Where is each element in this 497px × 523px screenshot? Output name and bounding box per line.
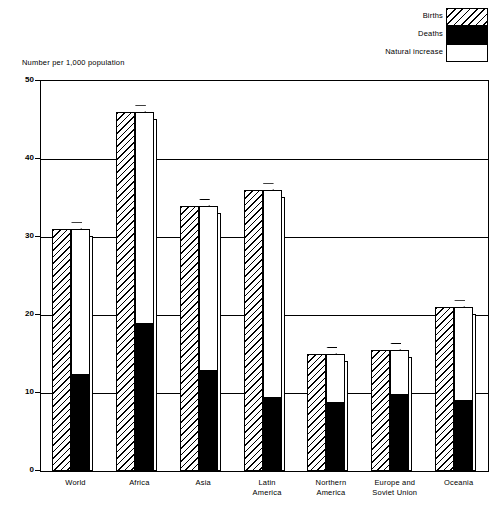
y-axis-tick-label: 0 [0, 465, 34, 474]
y-axis-title: Number per 1,000 population [22, 58, 125, 67]
bar-segment-deaths [200, 370, 217, 470]
bar-births [244, 190, 263, 471]
bar-stack-natural-increase [71, 229, 90, 471]
bar-segment-deaths [391, 394, 408, 470]
legend-swatch-births-icon [446, 8, 488, 26]
legend-label-natural-increase: Natural increase [385, 46, 443, 58]
y-axis-tick-label: 40 [0, 153, 34, 162]
bar-segment-deaths [72, 374, 89, 470]
bar-births [307, 354, 326, 471]
bar-births [52, 229, 71, 471]
bar-stack-natural-increase [390, 350, 409, 471]
bar-stack-natural-increase [135, 112, 154, 471]
bar-stack-natural-increase [454, 307, 473, 471]
bar-segment-deaths [455, 400, 472, 470]
bar-group [244, 81, 293, 471]
plot-area [40, 80, 489, 472]
bar-births [180, 206, 199, 471]
bar-births [116, 112, 135, 471]
chart-legend: Births Deaths Natural increase [390, 8, 490, 63]
legend-label-deaths: Deaths [418, 28, 443, 40]
y-axis-tick-label: 10 [0, 387, 34, 396]
bar-births [435, 307, 454, 471]
y-axis-tick-label: 20 [0, 309, 34, 318]
bar-group [116, 81, 165, 471]
legend-item-natural-increase: Natural increase [390, 44, 490, 62]
bar-group [307, 81, 356, 471]
legend-label-births: Births [423, 10, 443, 22]
bar-births [371, 350, 390, 471]
bar-stack-natural-increase [326, 354, 345, 471]
legend-item-births: Births [390, 8, 490, 26]
y-axis-tick-label: 30 [0, 231, 34, 240]
bar-segment-deaths [327, 402, 344, 470]
legend-swatch-deaths-icon [446, 26, 488, 44]
bar-group [52, 81, 101, 471]
bar-group [435, 81, 484, 471]
chart-page: Births Deaths Natural increase Number pe… [0, 0, 497, 523]
x-axis-category-label: Oceania [416, 478, 497, 488]
y-axis-tick-label: 50 [0, 75, 34, 84]
bar-group [180, 81, 229, 471]
bar-segment-deaths [136, 323, 153, 470]
bar-stack-natural-increase [263, 190, 282, 471]
bar-group [371, 81, 420, 471]
bar-stack-natural-increase [199, 206, 218, 471]
legend-swatch-natural-increase-icon [446, 44, 488, 62]
bar-segment-deaths [264, 397, 281, 470]
legend-item-deaths: Deaths [390, 26, 490, 44]
